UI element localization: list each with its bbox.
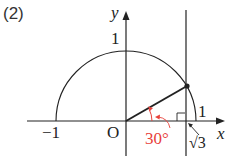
radius-segment xyxy=(126,86,187,121)
y-tick-1: 1 xyxy=(111,30,120,47)
origin-label: O xyxy=(107,124,119,141)
x-tick-neg-1: −1 xyxy=(42,124,60,141)
right-angle-marker xyxy=(177,113,185,121)
x-tick-1: 1 xyxy=(198,103,207,120)
angle-label: 30° xyxy=(145,130,169,147)
y-axis-arrow-icon xyxy=(123,11,130,20)
angle-leader xyxy=(158,117,170,128)
sqrt3-leader-arrow-icon xyxy=(188,123,193,128)
angle-arc xyxy=(149,109,152,121)
x-axis-label: x xyxy=(217,125,225,142)
angle-leader-arrow-icon xyxy=(155,115,160,120)
intersection-point xyxy=(184,83,189,88)
x-tick-sqrt3: √3 xyxy=(189,135,206,151)
problem-label: (2) xyxy=(3,5,24,22)
y-axis-label: y xyxy=(111,4,119,21)
